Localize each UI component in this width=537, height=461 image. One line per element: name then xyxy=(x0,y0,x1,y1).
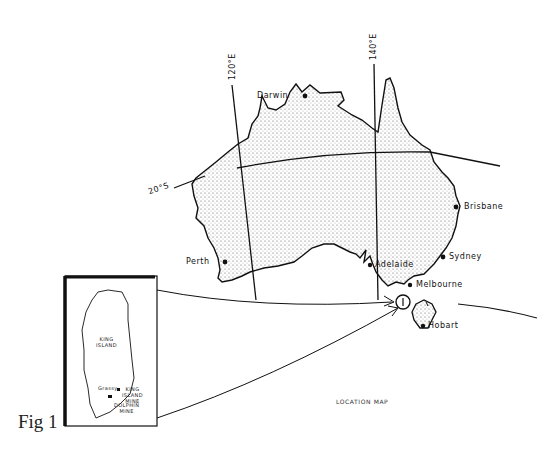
city-label-perth: Perth xyxy=(186,257,209,266)
city-label-sydney: Sydney xyxy=(449,252,482,261)
map-caption: LOCATION MAP xyxy=(336,398,388,405)
perth-dot xyxy=(223,260,228,265)
australia-mainland xyxy=(192,78,460,286)
city-label-brisbane: Brisbane xyxy=(464,202,503,211)
meridian-label-140e: 140°E xyxy=(369,33,378,60)
parallel-lower xyxy=(458,304,537,318)
inset-title: KING ISLAND xyxy=(96,336,117,348)
figure-label: Fig 1 xyxy=(18,411,58,433)
brisbane-dot xyxy=(454,205,459,210)
sydney-dot xyxy=(441,255,446,260)
city-label-darwin: Darwin xyxy=(257,91,288,100)
adelaide-dot xyxy=(368,263,372,267)
inset-place-grassy: Grassy xyxy=(98,385,118,391)
darwin-dot xyxy=(303,94,308,99)
connector-upper xyxy=(157,290,392,304)
hobart-dot xyxy=(421,324,425,328)
meridian-label-120e: 120°E xyxy=(228,53,237,80)
melbourne-dot xyxy=(408,283,412,287)
city-label-adelaide: Adelaide xyxy=(375,260,414,269)
location-map xyxy=(0,0,537,461)
inset-place-dolphin-mine: DOLPHIN MINE xyxy=(114,402,139,414)
city-label-hobart: Hobart xyxy=(428,321,458,330)
city-label-melbourne: Melbourne xyxy=(416,280,463,289)
